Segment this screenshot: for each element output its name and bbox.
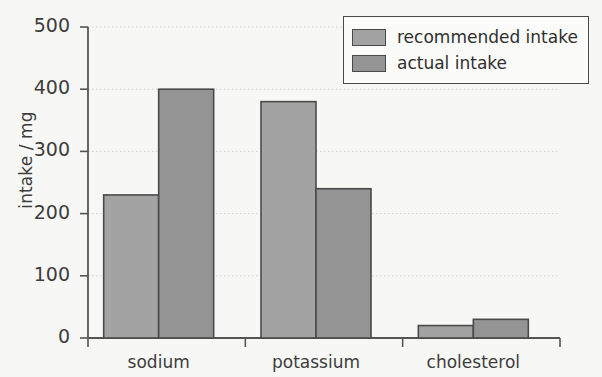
x-tick-label: cholesterol	[395, 354, 552, 371]
legend-label: recommended intake	[397, 27, 578, 47]
y-tick-label: 500	[0, 16, 70, 35]
bar	[418, 326, 473, 338]
legend-item: recommended intake	[352, 24, 578, 50]
x-tick-label: potassium	[237, 354, 394, 371]
legend-label: actual intake	[397, 53, 507, 73]
y-tick-label: 100	[0, 265, 70, 284]
bar	[261, 102, 316, 338]
legend-item: actual intake	[352, 50, 578, 76]
bar	[316, 189, 371, 338]
y-tick-label: 400	[0, 78, 70, 97]
legend: recommended intake actual intake	[343, 16, 589, 84]
x-tick-label: sodium	[80, 354, 237, 371]
y-tick-label: 0	[0, 327, 70, 346]
bar	[473, 319, 528, 338]
legend-swatch-recommended-intake	[352, 29, 386, 46]
bar-chart: intake / mg 0100200300400500 sodiumpotas…	[0, 0, 602, 377]
legend-swatch-actual-intake	[352, 55, 386, 72]
bar	[104, 195, 159, 338]
y-tick-label: 300	[0, 140, 70, 159]
y-tick-label: 200	[0, 203, 70, 222]
bar	[159, 89, 214, 338]
